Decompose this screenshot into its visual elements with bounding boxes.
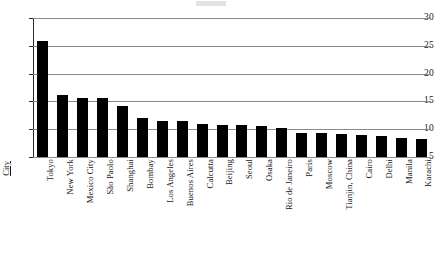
x-axis-category-label: Paris <box>305 159 314 179</box>
bar <box>376 136 387 157</box>
x-axis-category-label: Manila <box>405 159 414 186</box>
bar <box>236 125 247 157</box>
x-axis-category-label-text: Calcutta <box>206 159 215 190</box>
x-axis-category-label-text: Tokyo <box>46 159 55 183</box>
x-axis-category-label-text: Tianjin, China <box>345 159 354 212</box>
x-axis-category-label: Rio de Janeiro <box>285 159 294 212</box>
bar <box>296 133 307 157</box>
bar <box>137 118 148 157</box>
bar <box>256 126 267 157</box>
x-axis-category-label: Shanghai <box>126 159 135 194</box>
x-axis-category-label-text: Osaka <box>265 159 274 183</box>
bar <box>57 95 68 157</box>
bar <box>97 98 108 157</box>
gridline <box>33 157 431 158</box>
x-axis-category-label: New York <box>66 159 75 197</box>
x-axis-category-label-text: Moscow <box>325 159 334 191</box>
bar <box>396 138 407 157</box>
gridline <box>33 74 431 75</box>
x-axis-category-label: Delhi <box>385 159 394 181</box>
gridline <box>33 129 431 130</box>
bar <box>117 106 128 157</box>
bar <box>77 98 88 157</box>
x-axis-category-label: Seoul <box>245 159 254 181</box>
x-axis-category-label-text: Buenos Aires <box>186 159 195 208</box>
gridline <box>33 46 431 47</box>
x-axis-category-label-text: Paris <box>305 159 314 179</box>
x-axis-category-label: São Paolo <box>106 159 115 197</box>
x-axis-category-label-text: Manila <box>405 159 414 186</box>
x-axis-category-label: Tokyo <box>46 159 55 183</box>
scan-artifact <box>196 1 226 6</box>
x-axis-category-label-text: São Paolo <box>106 159 115 197</box>
bar <box>316 133 327 157</box>
x-axis-category-label: Calcutta <box>206 159 215 190</box>
x-axis-category-label-text: Beijing <box>225 159 234 187</box>
x-axis-category-label-text: Seoul <box>245 159 254 181</box>
gridline <box>33 101 431 102</box>
x-axis-category-labels: TokyoNew YorkMexico CitySão PaoloShangha… <box>33 159 431 254</box>
x-axis-category-label-text: Karachi <box>424 159 433 189</box>
gridline <box>33 18 431 19</box>
bar-chart: 30252015105 TokyoNew YorkMexico CitySão … <box>0 0 434 254</box>
bar <box>276 128 287 157</box>
x-axis-category-label-text: Bombay <box>146 159 155 191</box>
x-axis-category-label: Osaka <box>265 159 274 183</box>
x-axis-category-label: Karachi <box>424 159 433 189</box>
x-axis-category-label: Cairo <box>365 159 374 181</box>
bar <box>177 121 188 157</box>
x-axis-category-label: Tianjin, China <box>345 159 354 212</box>
bar <box>197 124 208 157</box>
bar <box>37 41 48 157</box>
x-axis-category-label-text: Delhi <box>385 159 394 181</box>
x-axis-category-label-text: New York <box>66 159 75 197</box>
x-axis-category-label: Beijing <box>225 159 234 187</box>
x-axis-category-label: Mexico City <box>86 159 95 205</box>
bar <box>336 134 347 157</box>
bar <box>217 125 228 157</box>
x-axis-category-label: Buenos Aires <box>186 159 195 208</box>
x-axis-category-label-text: Cairo <box>365 159 374 181</box>
x-axis-category-label-text: Rio de Janeiro <box>285 159 294 212</box>
x-axis-category-label-text: Shanghai <box>126 159 135 194</box>
bar <box>157 121 168 157</box>
x-axis-title: City <box>2 161 11 176</box>
plot-area <box>33 18 431 157</box>
x-axis-category-label: Bombay <box>146 159 155 191</box>
x-axis-category-label-text: Mexico City <box>86 159 95 205</box>
bar <box>416 139 427 157</box>
x-axis-category-label: Moscow <box>325 159 334 191</box>
bar <box>356 135 367 157</box>
x-axis-category-label-text: Los Angeles <box>166 159 175 205</box>
x-axis-category-label: Los Angeles <box>166 159 175 205</box>
